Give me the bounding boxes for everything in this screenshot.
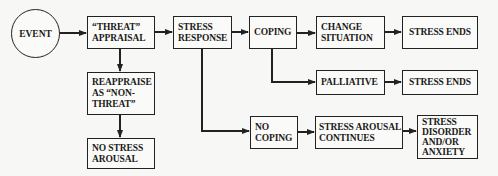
node-label-line: REAPPRAISE: [92, 77, 150, 88]
node-palliative: PALLIATIVE: [316, 70, 385, 95]
node-no-stress-arousal: NO STRESS AROUSAL: [87, 138, 155, 169]
node-coping: COPING: [249, 16, 297, 49]
node-label-line: NO: [255, 122, 293, 133]
node-label-line: CHANGE: [321, 22, 380, 33]
node-label-line: RESPONSE: [178, 33, 227, 44]
node-label-line: DISORDER: [422, 127, 473, 137]
node-label-line: SITUATION: [321, 33, 380, 44]
stress-flowchart: EVENT “THREAT” APPRAISAL STRESS RESPONSE…: [0, 0, 498, 176]
node-threat-appraisal: “THREAT” APPRAISAL: [87, 16, 155, 49]
node-stress-arousal-continues: STRESS AROUSAL CONTINUES: [315, 116, 403, 149]
node-label-line: STRESS AROUSAL: [319, 122, 399, 133]
node-stress-ends-2: STRESS ENDS: [402, 70, 478, 95]
node-label-line: AROUSAL: [92, 154, 150, 165]
node-event-label: EVENT: [19, 29, 52, 39]
node-label-line: STRESS ENDS: [409, 77, 471, 88]
node-no-coping: NO COPING: [250, 116, 298, 149]
node-label-line: AND/OR: [422, 137, 473, 147]
node-stress-response: STRESS RESPONSE: [173, 16, 232, 49]
node-label-line: CONTINUES: [319, 133, 399, 144]
node-change-situation: CHANGE SITUATION: [316, 16, 385, 49]
node-label-line: ANXIETY: [422, 147, 473, 157]
node-label-line: STRESS: [178, 22, 227, 33]
node-label-line: “THREAT”: [92, 22, 150, 33]
node-label-line: APPRAISAL: [92, 33, 150, 44]
node-label-line: STRESS ENDS: [409, 27, 471, 38]
node-stress-ends-1: STRESS ENDS: [402, 16, 478, 49]
node-label-line: COPING: [254, 27, 292, 38]
node-stress-disorder: STRESS DISORDER AND/OR ANXIETY: [417, 115, 478, 159]
node-reappraise: REAPPRAISE AS “NON- THREAT”: [87, 72, 155, 115]
node-event: EVENT: [11, 9, 60, 58]
node-label-line: COPING: [255, 133, 293, 144]
node-label-line: THREAT”: [92, 99, 150, 110]
node-label-line: STRESS: [422, 117, 473, 127]
node-label-line: AS “NON-: [92, 88, 150, 99]
node-label-line: NO STRESS: [92, 143, 150, 154]
node-label-line: PALLIATIVE: [321, 77, 380, 88]
